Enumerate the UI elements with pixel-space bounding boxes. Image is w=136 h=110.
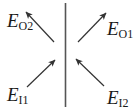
vector-e-o1: EO1 <box>78 13 133 42</box>
arrow-e-i1 <box>27 60 55 87</box>
label-e-i2: EI2 <box>106 87 129 110</box>
label-e-i1: EI1 <box>6 84 29 107</box>
vector-e-i2: EI2 <box>76 59 129 110</box>
arrow-e-i2 <box>76 59 104 86</box>
label-e-o2: EO2 <box>6 10 33 33</box>
vector-e-o2: EO2 <box>6 10 54 42</box>
label-e-o1: EO1 <box>106 18 133 41</box>
vector-e-i1: EI1 <box>6 60 55 107</box>
field-vector-diagram: EO2 EO1 EI1 EI2 <box>0 0 136 110</box>
arrow-e-o1 <box>78 13 106 42</box>
